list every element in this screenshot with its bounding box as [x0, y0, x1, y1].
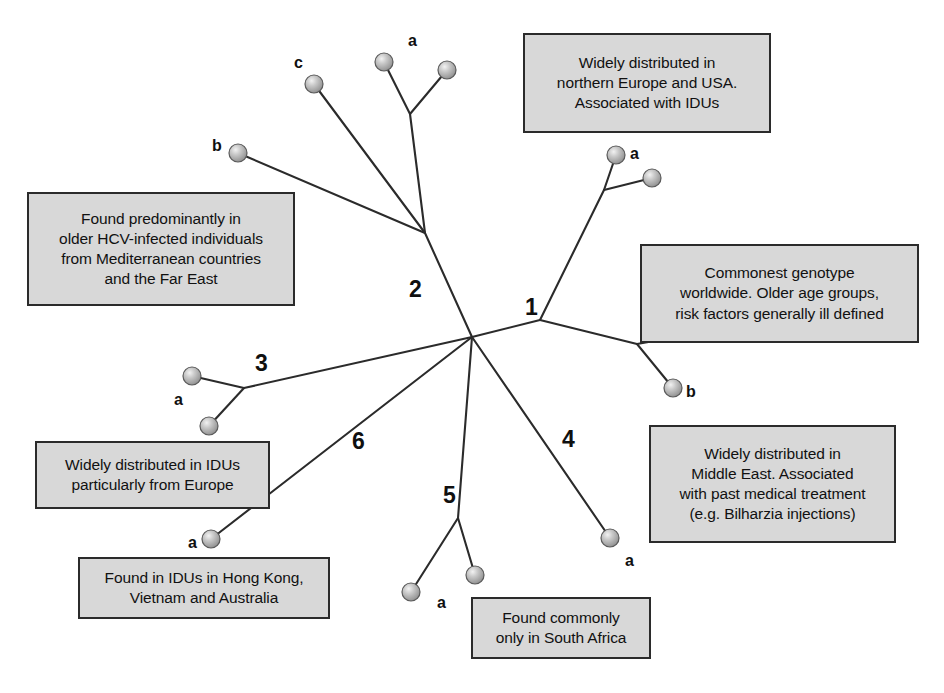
- tip-label-6a: a: [188, 535, 197, 551]
- genotype-4-label: 4: [562, 428, 575, 451]
- tree-branch: [314, 84, 425, 233]
- annotation-text: Widely distributed in IDUsparticularly f…: [43, 455, 262, 495]
- annotation-text: Found commonlyonly in South Africa: [479, 608, 643, 648]
- tip-label-1b: b: [686, 384, 696, 400]
- genotype-5-label: 5: [443, 484, 456, 507]
- genotype-1-label: 1: [525, 296, 538, 319]
- tree-tip-nodes: [183, 53, 709, 601]
- tree-branches: [192, 62, 700, 592]
- tree-branch: [425, 233, 472, 337]
- tree-branch: [540, 190, 604, 320]
- tree-tip-node: [438, 61, 456, 79]
- tip-label-2b: b: [212, 138, 222, 154]
- genotype-3-label: 3: [255, 352, 268, 375]
- genotype-2-label: 2: [409, 278, 422, 301]
- tip-label-4a: a: [625, 553, 634, 569]
- tree-tip-node: [183, 367, 201, 385]
- tree-branch: [411, 518, 458, 592]
- genotype-6-label: 6: [352, 430, 365, 453]
- annotation-genotype-1-north: Widely distributed innorthern Europe and…: [523, 33, 771, 133]
- annotation-genotype-1: Commonest genotypeworldwide. Older age g…: [640, 244, 919, 343]
- tree-tip-node: [375, 53, 393, 71]
- annotation-text: Widely distributed innorthern Europe and…: [531, 53, 763, 113]
- tree-tip-node: [402, 583, 420, 601]
- phylogenetic-tree-figure: Widely distributed innorthern Europe and…: [0, 0, 944, 693]
- annotation-text: Found predominantly inolder HCV-infected…: [35, 209, 287, 290]
- tree-tip-node: [664, 379, 682, 397]
- annotation-genotype-3: Widely distributed in IDUsparticularly f…: [35, 441, 270, 509]
- tip-label-2c: c: [294, 55, 303, 71]
- tree-tip-node: [643, 169, 661, 187]
- annotation-genotype-2: Found predominantly inolder HCV-infected…: [27, 192, 295, 306]
- tree-branch: [458, 337, 472, 518]
- tip-label-5a: a: [437, 595, 446, 611]
- annotation-text: Widely distributed inMiddle East. Associ…: [657, 444, 888, 525]
- annotation-genotype-5: Found commonlyonly in South Africa: [471, 597, 651, 659]
- annotation-text: Commonest genotypeworldwide. Older age g…: [648, 263, 911, 323]
- annotation-text: Found in IDUs in Hong Kong,Vietnam and A…: [86, 568, 322, 608]
- tree-tip-node: [200, 417, 218, 435]
- tip-label-1a: a: [630, 146, 639, 162]
- tree-branch: [472, 320, 540, 337]
- tree-tip-node: [202, 530, 220, 548]
- tip-label-3a: a: [174, 392, 183, 408]
- tree-tip-node: [601, 529, 619, 547]
- tip-label-2a: a: [408, 33, 417, 49]
- annotation-genotype-6: Found in IDUs in Hong Kong,Vietnam and A…: [78, 557, 330, 619]
- tree-branch: [472, 337, 610, 538]
- tree-tip-node: [607, 146, 625, 164]
- tree-tip-node: [305, 75, 323, 93]
- annotation-genotype-4: Widely distributed inMiddle East. Associ…: [649, 425, 896, 543]
- tree-branch: [540, 320, 637, 344]
- tree-tip-node: [229, 144, 247, 162]
- tree-tip-node: [466, 566, 484, 584]
